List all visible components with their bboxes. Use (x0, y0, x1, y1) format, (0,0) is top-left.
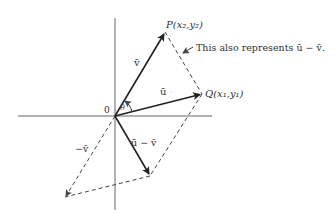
dashed-q-to-diff-tip (150, 94, 202, 176)
u-minus-v-label: ū − v̄ (131, 137, 157, 148)
neg-v-label: −v̄ (75, 143, 89, 154)
dashed-diff-tip-to-neg-v (65, 176, 150, 197)
vector-diagram: 0 θ P(x₂,y₂) Q(x₁,y₁) v̄ ū ū − v̄ −v̄ Th… (0, 0, 336, 222)
theta-label: θ (120, 103, 125, 112)
v-label: v̄ (133, 57, 140, 68)
q-point-label: Q(x₁,y₁) (205, 88, 244, 99)
origin-label: 0 (104, 105, 110, 115)
annotation-pointer (183, 47, 193, 53)
u-vector (115, 95, 200, 117)
u-label: ū (160, 86, 167, 97)
theta-arc (125, 101, 132, 112)
annotation-text: This also represents ū − v̄. (196, 42, 325, 53)
p-point-label: P(x₂,y₂) (165, 19, 203, 30)
neg-v-vector (66, 116, 115, 196)
